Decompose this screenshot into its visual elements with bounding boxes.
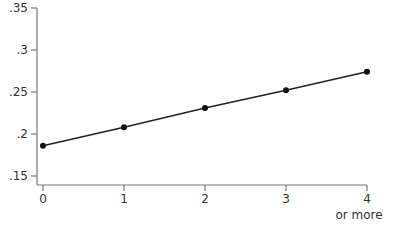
data-point-marker (121, 124, 127, 130)
y-tick-label: .3 (17, 43, 28, 57)
data-point-marker (283, 87, 289, 93)
x-tick-label: 3 (282, 192, 290, 206)
data-point-marker (202, 105, 208, 111)
x-tick-label: 1 (120, 192, 128, 206)
y-tick-label: .15 (9, 169, 28, 183)
data-point-marker (40, 143, 46, 149)
y-tick-label: .2 (17, 127, 28, 141)
series-layer (40, 69, 370, 149)
x-tick-label: 2 (201, 192, 209, 206)
data-point-marker (364, 69, 370, 75)
y-tick-label: .25 (9, 85, 28, 99)
line-chart: .15.2.25.3.35 01234or more (0, 0, 398, 235)
x-tick-label: 0 (39, 192, 47, 206)
y-tick-label: .35 (9, 1, 28, 15)
y-axis: .15.2.25.3.35 (9, 1, 37, 185)
x-tick-sublabel: or more (335, 208, 382, 222)
x-axis: 01234or more (37, 185, 383, 222)
x-tick-label: 4 (363, 192, 371, 206)
